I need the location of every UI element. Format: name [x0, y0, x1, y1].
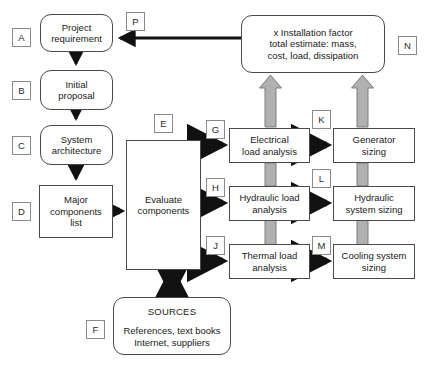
node-sources-line1: References, text books — [123, 325, 220, 337]
tag-f[interactable]: F — [86, 320, 105, 339]
node-major-components-list[interactable]: Major components list — [39, 185, 113, 238]
node-system-architecture[interactable]: System architecture — [40, 125, 113, 165]
tag-d[interactable]: D — [12, 202, 31, 221]
node-project-requirement-line1: Project — [51, 22, 102, 34]
tag-c[interactable]: C — [12, 136, 31, 155]
node-generator-line1: Generator — [353, 134, 396, 146]
node-thermal-load-analysis[interactable]: Thermal load analysis — [229, 244, 310, 279]
node-hydraulic-system-sizing[interactable]: Hydraulic system sizing — [333, 186, 415, 221]
node-system-architecture-line1: System — [52, 134, 102, 146]
node-hydraulic-sizing-line2: system sizing — [345, 204, 402, 216]
node-installation-factor-line2: total estimate: mass, — [268, 38, 359, 50]
tag-m[interactable]: M — [312, 236, 331, 255]
node-initial-proposal-line1: Initial — [58, 79, 94, 91]
tag-j[interactable]: J — [206, 236, 225, 255]
node-system-architecture-line2: architecture — [52, 145, 102, 157]
node-initial-proposal[interactable]: Initial proposal — [40, 70, 113, 110]
node-installation-factor-line3: cost, load, dissipation — [268, 50, 359, 62]
node-electrical-load-analysis[interactable]: Electrical load analysis — [229, 128, 310, 163]
node-electrical-line2: load analysis — [242, 146, 297, 158]
node-cooling-system-sizing[interactable]: Cooling system sizing — [333, 244, 415, 279]
node-hydraulic-line1: Hydraulic load — [239, 192, 299, 204]
tag-e[interactable]: E — [154, 114, 173, 133]
node-cooling-line2: sizing — [342, 262, 407, 274]
node-evaluate-components-line1: Evaluate — [138, 194, 190, 206]
node-thermal-line2: analysis — [242, 262, 297, 274]
node-project-requirement-line2: requirement — [51, 33, 102, 45]
node-installation-factor-line1: x Installation factor — [268, 27, 359, 39]
node-hydraulic-load-analysis[interactable]: Hydraulic load analysis — [229, 186, 310, 221]
tag-g[interactable]: G — [206, 120, 225, 139]
tag-p[interactable]: P — [126, 12, 145, 31]
tag-l[interactable]: L — [312, 169, 331, 188]
tag-a[interactable]: A — [12, 28, 31, 47]
node-evaluate-components[interactable]: Evaluate components — [126, 140, 201, 270]
tag-k[interactable]: K — [312, 110, 331, 129]
tag-n[interactable]: N — [398, 36, 417, 55]
node-thermal-line1: Thermal load — [242, 250, 297, 262]
node-evaluate-components-line2: components — [138, 205, 190, 217]
node-sources[interactable]: SOURCES References, text books Internet,… — [113, 297, 231, 355]
node-hydraulic-sizing-line1: Hydraulic — [345, 192, 402, 204]
node-initial-proposal-line2: proposal — [58, 90, 94, 102]
node-installation-factor[interactable]: x Installation factor total estimate: ma… — [241, 15, 385, 73]
node-electrical-line1: Electrical — [242, 134, 297, 146]
node-cooling-line1: Cooling system — [342, 250, 407, 262]
tag-b[interactable]: B — [12, 81, 31, 100]
node-major-components-line1: Major — [50, 194, 102, 206]
tag-h[interactable]: H — [206, 178, 225, 197]
node-project-requirement[interactable]: Project requirement — [40, 14, 113, 52]
node-hydraulic-line2: analysis — [239, 204, 299, 216]
node-major-components-line3: list — [50, 217, 102, 229]
node-generator-line2: sizing — [353, 146, 396, 158]
node-sources-title: SOURCES — [148, 306, 196, 318]
node-sources-line2: Internet, suppliers — [123, 337, 220, 349]
node-generator-sizing[interactable]: Generator sizing — [333, 128, 415, 163]
node-major-components-line2: components — [50, 206, 102, 218]
flowchart-canvas: Project requirement Initial proposal Sys… — [0, 0, 434, 373]
